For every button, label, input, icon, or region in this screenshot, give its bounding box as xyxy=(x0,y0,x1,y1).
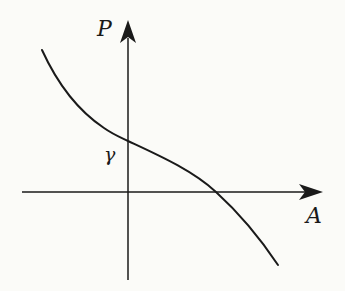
graph-svg: P γ A xyxy=(0,0,345,291)
a-axis-label: A xyxy=(304,203,322,228)
p-axis-label: P xyxy=(96,16,113,41)
diagram-canvas: P γ A xyxy=(0,0,345,291)
gamma-intercept-label: γ xyxy=(104,143,116,165)
p-of-a-curve xyxy=(42,50,278,265)
